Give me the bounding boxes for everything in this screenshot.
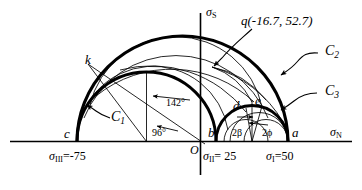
c2-sub: 2	[334, 50, 339, 60]
sigma-n-axis-label: σN	[330, 126, 342, 140]
c1-sub: 1	[120, 116, 125, 126]
sigma-I-value-label: σI=50	[266, 150, 293, 164]
figure-canvas: σS σN O q(-16.7, 52.7) C2 C3 C1 k c b a …	[0, 0, 362, 190]
leader-c2	[281, 53, 318, 75]
leader-c1	[87, 105, 110, 118]
c3-main: C	[325, 83, 334, 98]
point-q-label: q(-16.7, 52.7)	[241, 14, 313, 27]
circle-c2-label: C2	[325, 44, 339, 60]
sigma-n-subscript: N	[336, 131, 342, 140]
leader-c3	[281, 93, 317, 110]
sigma-III-value: =-75	[63, 149, 86, 163]
c2-main: C	[325, 43, 334, 58]
sigma-II-value: = 25	[214, 149, 236, 163]
angle-2beta-label: 2β	[232, 128, 242, 138]
sigma-s-axis-label: σS	[206, 6, 216, 20]
circle-c1-label: C1	[111, 110, 125, 126]
angle-2phi-label: 2ϕ	[262, 128, 272, 138]
point-e-label: e	[255, 94, 261, 107]
sigma-III-value-label: σIII=-75	[49, 150, 86, 164]
sigma-III-subscript: III	[55, 155, 63, 164]
c3-sub: 3	[334, 90, 339, 100]
circle-c3-label: C3	[325, 84, 339, 100]
angle-96-label: 96°	[152, 128, 166, 138]
point-k-label: k	[85, 53, 91, 66]
sigma-s-subscript: S	[212, 11, 217, 20]
c1-main: C	[111, 109, 120, 124]
sigma-I-value: =50	[275, 149, 294, 163]
sigma-II-value-label: σII= 25	[203, 150, 236, 164]
point-d-label: d	[233, 99, 240, 112]
origin-label: O	[190, 144, 199, 156]
point-a-label: a	[292, 126, 299, 139]
point-c-label: c	[64, 127, 70, 140]
angle-142-label: 142°	[166, 98, 185, 108]
point-b-label: b	[208, 126, 215, 139]
